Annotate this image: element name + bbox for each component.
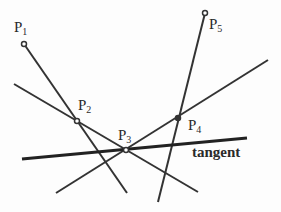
label-p2: P2 [78, 98, 91, 115]
label-p4: P4 [188, 118, 201, 135]
label-p5-sub: 5 [217, 23, 222, 34]
point-p2-marker [75, 119, 80, 124]
label-p4-sub: 4 [196, 124, 201, 135]
label-p1-sub: 1 [22, 26, 27, 37]
tangent-label: tangent [192, 144, 240, 161]
label-p2-sub: 2 [86, 104, 91, 115]
point-p1-marker [22, 42, 27, 47]
diagram-svg [0, 0, 281, 212]
label-p3-sub: 3 [126, 134, 131, 145]
point-p4-marker [176, 116, 181, 121]
label-p3: P3 [118, 128, 131, 145]
point-p3-marker [124, 148, 129, 153]
diagram-canvas: P1 P2 P3 P4 P5 tangent [0, 0, 281, 212]
line-p2-p3 [14, 84, 198, 192]
point-p5-marker [203, 11, 208, 16]
label-p1: P1 [14, 20, 27, 37]
line-p5-p4 [158, 13, 205, 202]
label-p5: P5 [209, 17, 222, 34]
